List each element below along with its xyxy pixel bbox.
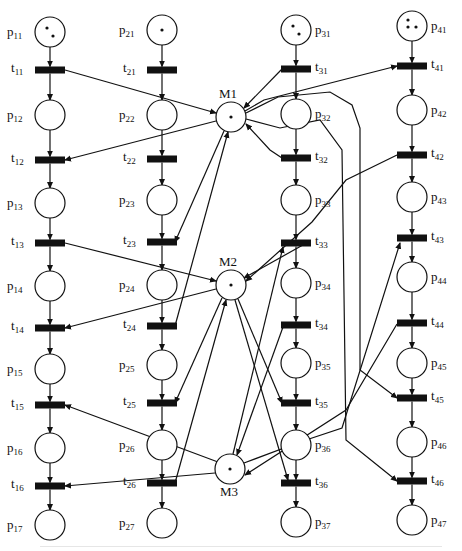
token-icon xyxy=(228,467,231,470)
place-p42[interactable] xyxy=(397,95,427,125)
transition-label: t36 xyxy=(315,473,328,490)
transition-label: t14 xyxy=(11,318,24,335)
token-icon xyxy=(229,115,232,118)
transition-t24[interactable] xyxy=(147,323,177,330)
transition-label: t43 xyxy=(431,228,444,245)
resource-arc-t24-M1 xyxy=(175,132,228,326)
resource-arc-M1-t12 xyxy=(65,121,216,160)
resource-arc-M3-t43 xyxy=(244,243,400,463)
token-icon xyxy=(406,18,409,21)
token-icon xyxy=(45,26,48,29)
place-p11[interactable] xyxy=(35,17,65,47)
token-icon xyxy=(51,34,54,37)
transition-t14[interactable] xyxy=(35,325,65,332)
place-label: p22 xyxy=(119,107,135,124)
place-label: p14 xyxy=(7,278,23,295)
place-p41[interactable] xyxy=(397,11,427,41)
place-p27[interactable] xyxy=(147,508,177,538)
place-p46[interactable] xyxy=(397,427,427,457)
resource-arc-M1-t46 xyxy=(246,119,397,481)
transition-t35[interactable] xyxy=(281,400,311,407)
transition-t15[interactable] xyxy=(35,402,65,409)
place-p25[interactable] xyxy=(147,350,177,380)
place-label: p44 xyxy=(431,269,447,286)
transition-t44[interactable] xyxy=(397,320,427,327)
place-p14[interactable] xyxy=(35,271,65,301)
transition-label: t41 xyxy=(431,56,444,73)
resource-arc-M2-t35 xyxy=(238,299,282,403)
place-label: p47 xyxy=(431,512,447,529)
transition-t42[interactable] xyxy=(397,152,427,159)
place-p45[interactable] xyxy=(397,348,427,378)
place-p26[interactable] xyxy=(147,430,177,460)
token-icon xyxy=(297,32,300,35)
resource-arc-M3-t16 xyxy=(65,473,215,486)
transition-t41[interactable] xyxy=(397,63,427,70)
place-label: p32 xyxy=(315,106,331,123)
transition-t25[interactable] xyxy=(147,400,177,407)
transition-t16[interactable] xyxy=(35,483,65,490)
place-label: p16 xyxy=(7,440,23,457)
place-label: p45 xyxy=(431,355,447,372)
place-label: p37 xyxy=(315,514,331,531)
resource-arc-t32-M1 xyxy=(246,124,282,158)
transition-t13[interactable] xyxy=(35,240,65,247)
transition-t22[interactable] xyxy=(147,156,177,163)
place-p36[interactable] xyxy=(281,430,311,460)
place-label: p21 xyxy=(119,22,135,39)
transition-t33[interactable] xyxy=(281,240,311,247)
place-p31[interactable] xyxy=(281,15,311,45)
resource-arc-t31-M1 xyxy=(244,69,282,108)
transition-t26[interactable] xyxy=(147,480,177,487)
place-p17[interactable] xyxy=(35,510,65,540)
transition-label: t23 xyxy=(123,232,136,249)
token-icon xyxy=(160,28,163,31)
place-p32[interactable] xyxy=(281,99,311,129)
token-icon xyxy=(406,25,409,28)
resource-arc-M2-t25 xyxy=(175,298,222,403)
transition-t34[interactable] xyxy=(281,322,311,329)
transition-label: t44 xyxy=(431,313,444,330)
place-label: p26 xyxy=(119,437,135,454)
place-p44[interactable] xyxy=(397,262,427,292)
resource-arc-t15-M3 xyxy=(65,405,226,465)
place-p37[interactable] xyxy=(281,507,311,537)
transition-t32[interactable] xyxy=(281,155,311,162)
place-p15[interactable] xyxy=(35,354,65,384)
place-label: p27 xyxy=(119,515,135,532)
place-p13[interactable] xyxy=(35,188,65,218)
transition-t46[interactable] xyxy=(397,478,427,485)
petri-net-diagram: p11p12p13p14p15p16p17t11t12t13t14t15t16p… xyxy=(0,0,462,551)
place-p47[interactable] xyxy=(397,505,427,535)
place-p22[interactable] xyxy=(147,100,177,130)
transition-t23[interactable] xyxy=(147,239,177,246)
transition-t36[interactable] xyxy=(281,480,311,487)
place-p12[interactable] xyxy=(35,100,65,130)
transition-t12[interactable] xyxy=(35,157,65,164)
place-p24[interactable] xyxy=(147,270,177,300)
transition-label: t42 xyxy=(431,145,444,162)
transition-label: t34 xyxy=(315,315,328,332)
transition-t45[interactable] xyxy=(397,395,427,402)
transition-label: t15 xyxy=(11,395,24,412)
place-label: p11 xyxy=(7,24,22,41)
transition-t11[interactable] xyxy=(35,67,65,74)
token-icon xyxy=(229,283,232,286)
resource-arc-M2-t14 xyxy=(65,289,216,328)
resource-arc-t42-M2 xyxy=(246,155,397,281)
place-p33[interactable] xyxy=(281,185,311,215)
place-p43[interactable] xyxy=(397,182,427,212)
place-p23[interactable] xyxy=(147,185,177,215)
place-label: p43 xyxy=(431,189,447,206)
transition-t21[interactable] xyxy=(147,67,177,74)
place-p34[interactable] xyxy=(281,268,311,298)
place-label: p46 xyxy=(431,434,447,451)
place-label: p12 xyxy=(7,107,23,124)
transition-label: t12 xyxy=(11,150,24,167)
place-label: p15 xyxy=(7,361,23,378)
transition-t31[interactable] xyxy=(281,66,311,73)
place-p35[interactable] xyxy=(281,348,311,378)
place-p16[interactable] xyxy=(35,433,65,463)
transition-label: t22 xyxy=(123,149,136,166)
transition-t43[interactable] xyxy=(397,235,427,242)
